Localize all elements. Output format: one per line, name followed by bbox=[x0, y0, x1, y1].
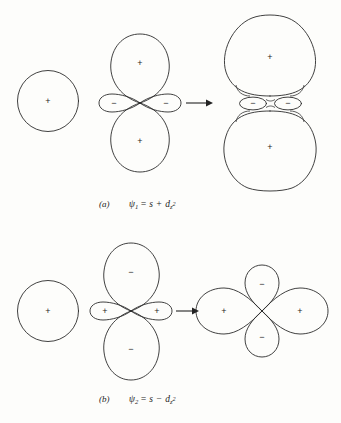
s-orbital-sign: + bbox=[45, 96, 50, 106]
panel-b-label: (b) bbox=[99, 394, 110, 404]
result-left-sign: + bbox=[221, 306, 226, 316]
panel-b-d-orbital: − − + + bbox=[90, 243, 172, 380]
operator-symbol: − bbox=[156, 394, 162, 404]
operator-symbol: + bbox=[156, 199, 162, 209]
panel-b: + − − + + bbox=[18, 243, 329, 405]
psi-subscript: 1 bbox=[135, 203, 138, 210]
result-left-lobe bbox=[196, 288, 262, 334]
d-orbital-bottom-sign: + bbox=[137, 136, 142, 146]
d-orbital-right-torus-lobe bbox=[131, 302, 172, 320]
result-right-sign: + bbox=[297, 306, 302, 316]
result-top-sign: + bbox=[267, 52, 272, 62]
d-orbital-top-lobe bbox=[111, 34, 170, 103]
d-orbital-right-sign: + bbox=[154, 306, 159, 316]
result-bottom-sign: − bbox=[259, 332, 264, 342]
result-bottom-inner-curve bbox=[236, 111, 250, 122]
d-superscript: 2 bbox=[173, 200, 176, 207]
d-orbital-left-torus-lobe bbox=[99, 94, 140, 112]
orbital-hybridization-figure: + + + − − bbox=[0, 0, 341, 423]
d-orbital-right-torus-lobe bbox=[140, 94, 181, 112]
equals-symbol: = bbox=[140, 199, 146, 209]
d-orbital-left-sign: + bbox=[102, 306, 107, 316]
panel-a-transform-arrow bbox=[186, 99, 213, 106]
panel-a: + + + − − bbox=[18, 15, 317, 210]
panel-a-result-orbital: + + − − bbox=[224, 15, 316, 191]
result-right-sign: − bbox=[285, 98, 290, 108]
figure-canvas: + + + − − bbox=[0, 0, 341, 423]
panel-b-result-orbital: + + − − bbox=[196, 265, 328, 357]
panel-a-s-orbital: + bbox=[18, 71, 79, 132]
result-right-lobe bbox=[262, 288, 328, 334]
result-bottom-inner-curve-right bbox=[290, 111, 304, 122]
panel-a-d-orbital: + + − − bbox=[99, 34, 181, 172]
panel-a-caption: (a) ψ1=s+dz2 bbox=[99, 199, 176, 210]
d-orbital-left-sign: − bbox=[111, 98, 116, 108]
d-orbital-left-torus-lobe bbox=[90, 302, 131, 320]
panel-b-s-orbital: + bbox=[18, 281, 79, 342]
arrow-head bbox=[192, 307, 199, 314]
result-top-inner-curve-right bbox=[290, 85, 304, 96]
equals-symbol: = bbox=[140, 394, 146, 404]
psi-subscript: 2 bbox=[135, 398, 139, 405]
result-node-lower bbox=[266, 106, 275, 108]
result-bottom-sign: + bbox=[267, 142, 272, 152]
panel-a-label: (a) bbox=[99, 199, 110, 209]
panel-a-caption-formula: ψ1=s+dz2 bbox=[129, 199, 176, 210]
d-orbital-right-sign: − bbox=[163, 98, 168, 108]
term-s: s bbox=[149, 394, 153, 404]
result-node-upper bbox=[266, 100, 275, 102]
d-orbital-bottom-sign: − bbox=[128, 344, 133, 354]
arrow-head bbox=[206, 99, 213, 106]
result-left-sign: − bbox=[250, 98, 255, 108]
result-top-sign: − bbox=[259, 279, 264, 289]
d-orbital-top-sign: − bbox=[128, 267, 133, 277]
d-superscript: 2 bbox=[173, 395, 176, 402]
panel-b-caption: (b) ψ2=s−dz2 bbox=[99, 394, 176, 405]
d-orbital-top-sign: + bbox=[137, 58, 142, 68]
result-top-inner-curve bbox=[236, 85, 250, 96]
s-orbital-sign: + bbox=[45, 306, 50, 316]
term-s: s bbox=[149, 199, 153, 209]
panel-b-caption-formula: ψ2=s−dz2 bbox=[129, 394, 176, 405]
